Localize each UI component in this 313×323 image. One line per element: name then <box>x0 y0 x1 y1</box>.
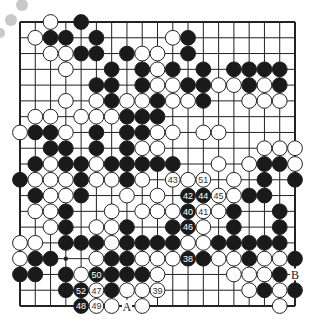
black-stone <box>104 62 119 77</box>
black-stone <box>104 78 119 93</box>
black-stone <box>272 220 287 235</box>
white-stone <box>104 172 119 187</box>
white-stone <box>13 235 28 250</box>
white-stone <box>28 172 43 187</box>
black-stone <box>28 125 43 140</box>
white-stone <box>211 157 226 172</box>
black-stone <box>58 235 73 250</box>
white-stone <box>272 93 287 108</box>
white-stone <box>242 267 257 282</box>
black-stone <box>58 204 73 219</box>
black-stone <box>120 172 135 187</box>
white-stone <box>58 62 73 77</box>
black-stone <box>272 267 287 282</box>
white-stone <box>89 172 104 187</box>
white-stone <box>242 157 257 172</box>
white-stone <box>150 204 165 219</box>
black-stone <box>257 188 272 203</box>
black-stone <box>135 109 150 124</box>
black-stone <box>272 78 287 93</box>
black-stone <box>89 235 104 250</box>
white-stone <box>43 157 58 172</box>
white-stone <box>28 235 43 250</box>
white-stone <box>288 157 303 172</box>
black-stone <box>226 220 241 235</box>
white-stone <box>89 109 104 124</box>
move-number: 43 <box>168 175 178 185</box>
move-number: 48 <box>76 301 86 311</box>
black-stone <box>165 62 180 77</box>
white-stone <box>89 220 104 235</box>
black-stone <box>120 109 135 124</box>
black-stone <box>196 93 211 108</box>
white-stone <box>150 62 165 77</box>
black-stone <box>150 109 165 124</box>
black-stone <box>104 267 119 282</box>
white-stone <box>43 172 58 187</box>
move-number: 51 <box>198 175 208 185</box>
white-stone <box>288 141 303 156</box>
black-stone <box>196 78 211 93</box>
black-stone <box>181 30 196 45</box>
white-stone <box>89 251 104 266</box>
black-stone <box>272 235 287 250</box>
white-stone <box>13 125 28 140</box>
move-number: 44 <box>198 191 208 201</box>
black-stone <box>226 204 241 219</box>
black-stone <box>120 267 135 282</box>
move-number: 49 <box>91 301 101 311</box>
black-stone <box>43 30 58 45</box>
black-stone <box>13 267 28 282</box>
white-stone <box>28 109 43 124</box>
black-stone <box>135 157 150 172</box>
white-stone <box>58 125 73 140</box>
black-stone <box>288 283 303 298</box>
black-stone <box>150 235 165 250</box>
white-stone <box>89 157 104 172</box>
white-stone <box>196 235 211 250</box>
white-stone <box>257 93 272 108</box>
black-stone <box>43 251 58 266</box>
white-stone <box>165 251 180 266</box>
black-stone <box>58 30 73 45</box>
white-stone <box>135 299 150 314</box>
black-stone <box>28 188 43 203</box>
black-stone <box>89 125 104 140</box>
black-stone <box>104 93 119 108</box>
black-stone <box>226 62 241 77</box>
black-stone <box>242 62 257 77</box>
white-stone <box>211 78 226 93</box>
white-stone <box>150 251 165 266</box>
white-stone <box>150 267 165 282</box>
white-stone <box>257 78 272 93</box>
black-stone <box>89 46 104 61</box>
white-stone <box>257 267 272 282</box>
black-stone <box>28 157 43 172</box>
white-stone <box>43 15 58 30</box>
white-stone <box>135 251 150 266</box>
white-stone <box>135 172 150 187</box>
black-stone <box>58 157 73 172</box>
white-stone <box>242 93 257 108</box>
black-stone <box>181 78 196 93</box>
white-stone <box>150 125 165 140</box>
black-stone <box>257 62 272 77</box>
black-stone <box>120 220 135 235</box>
point-label: B <box>291 268 299 282</box>
white-stone <box>43 109 58 124</box>
black-stone <box>196 251 211 266</box>
black-stone <box>242 235 257 250</box>
black-stone <box>28 267 43 282</box>
black-stone <box>120 125 135 140</box>
white-stone <box>104 109 119 124</box>
black-stone <box>104 157 119 172</box>
white-stone <box>120 283 135 298</box>
black-stone <box>288 172 303 187</box>
black-stone <box>135 78 150 93</box>
black-stone <box>120 157 135 172</box>
white-stone <box>196 220 211 235</box>
white-stone <box>181 172 196 187</box>
black-stone <box>120 251 135 266</box>
white-stone <box>257 141 272 156</box>
black-stone <box>242 188 257 203</box>
